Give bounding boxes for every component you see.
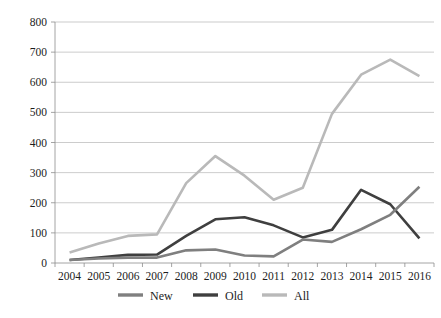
x-tick-label: 2009 [204,270,227,282]
series-line-new [70,187,420,260]
y-gridlines [55,22,434,233]
y-tick-label: 0 [41,257,47,269]
x-tick-label: 2014 [350,270,373,282]
y-tick-label: 800 [30,16,48,28]
series-line-all [70,60,420,253]
x-tick-label: 2016 [408,270,431,282]
legend-label-old[interactable]: Old [225,289,243,303]
data-series-group [70,60,420,260]
x-tick-label: 2010 [233,270,256,282]
x-tick-label: 2004 [58,270,81,282]
chart-legend: NewOldAll [118,289,310,303]
y-tick-label: 300 [30,167,48,179]
x-tick-label: 2011 [262,270,285,282]
x-axis-tick-labels: 2004200520062007200820092010201120122013… [58,270,431,282]
x-tick-label: 2008 [175,270,198,282]
legend-label-all[interactable]: All [294,289,310,303]
x-tick-label: 2006 [116,270,139,282]
y-tick-label: 700 [30,46,48,58]
line-chart-figure: 0100200300400500600700800 20042005200620… [0,0,441,318]
x-tick-label: 2005 [87,270,110,282]
y-tick-label: 600 [30,76,48,88]
chart-canvas: 0100200300400500600700800 20042005200620… [0,0,441,318]
x-tick-label: 2012 [291,270,314,282]
x-tick-marks [55,263,434,267]
legend-label-new[interactable]: New [150,289,173,303]
x-tick-label: 2007 [146,270,169,282]
y-tick-label: 200 [30,197,48,209]
y-tick-marks [51,22,55,263]
y-tick-label: 500 [30,106,48,118]
y-axis-tick-labels: 0100200300400500600700800 [30,16,48,269]
x-tick-label: 2013 [320,270,343,282]
series-line-old [70,190,420,260]
x-tick-label: 2015 [379,270,402,282]
y-tick-label: 400 [30,137,48,149]
y-tick-label: 100 [30,227,48,239]
